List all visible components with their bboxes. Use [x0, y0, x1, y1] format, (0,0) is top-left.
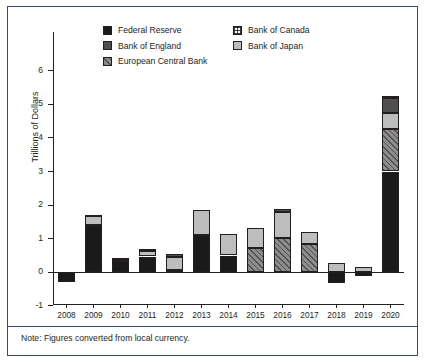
y-axis-tick-label: 5 — [13, 99, 43, 108]
bar-segment-boj-2009 — [85, 215, 102, 225]
bar-segment-boe-2010 — [112, 258, 129, 260]
y-axis-tick-label: 4 — [13, 133, 43, 142]
bar-segment-fed-2013 — [193, 235, 210, 273]
legend-row: European Central Bank — [103, 56, 363, 66]
legend-item-boe: Bank of England — [103, 41, 233, 51]
bar-segment-boj-2019 — [355, 267, 372, 273]
bar-segment-fed-2008 — [58, 272, 75, 282]
white-grid-pattern-swatch — [233, 26, 242, 35]
bar-segment-boj-2014 — [220, 234, 237, 256]
legend-label: European Central Bank — [118, 56, 207, 66]
bar-segment-boe-2009 — [85, 215, 102, 217]
chart-frame: Trillions of Dollars -10123456 200820092… — [7, 6, 418, 356]
chart-note: Note: Figures converted from local curre… — [21, 333, 189, 343]
chart-legend: Federal ReserveBank of CanadaBank of Eng… — [103, 25, 363, 72]
bar-segment-boc-2020 — [382, 96, 399, 99]
y-axis-tick-label: 1 — [13, 234, 43, 243]
bar-segment-fed-2010 — [112, 261, 129, 272]
y-axis-tick-label: 2 — [13, 200, 43, 209]
bar-segment-fed-2014 — [220, 256, 237, 273]
y-axis-tick — [48, 205, 53, 206]
bar-segment-ecb-2017 — [301, 244, 318, 273]
y-axis-tick-label: 0 — [13, 267, 43, 276]
y-axis-tick-label: -1 — [13, 301, 43, 310]
bar-segment-boj-2020 — [382, 113, 399, 129]
bar-segment-boe-2012 — [166, 254, 183, 257]
y-axis-tick — [48, 238, 53, 239]
bar-segment-boe-2020 — [382, 98, 399, 113]
plot-area: Trillions of Dollars -10123456 200820092… — [8, 7, 419, 355]
legend-item-ecb: European Central Bank — [103, 56, 234, 66]
y-axis-tick — [48, 104, 53, 105]
bar-segment-boj-2015 — [247, 228, 264, 248]
x-axis-tick-label: 2020 — [374, 310, 408, 320]
y-axis-line — [53, 32, 54, 305]
legend-row: Federal ReserveBank of Canada — [103, 25, 363, 35]
bar-segment-fed-2019 — [355, 272, 372, 276]
bar-segment-boj-2012 — [166, 257, 183, 270]
y-axis-tick-label: 6 — [13, 66, 43, 75]
bar-segment-ecb-2015 — [247, 248, 264, 273]
bar-2020 — [382, 7, 399, 307]
legend-item-boj: Bank of Japan — [233, 41, 363, 51]
bar-segment-fed-2020 — [382, 172, 399, 273]
bar-segment-boe-2011 — [139, 249, 156, 251]
bar-segment-fed-2011 — [139, 257, 156, 273]
bar-segment-fed-2012 — [166, 270, 183, 273]
bar-2008 — [58, 7, 75, 307]
y-axis-tick — [48, 272, 53, 273]
legend-label: Bank of Canada — [248, 25, 310, 35]
legend-item-fed: Federal Reserve — [103, 25, 233, 35]
note-divider — [8, 326, 417, 327]
bar-segment-fed-2009 — [85, 225, 102, 272]
dark-gray-swatch — [103, 41, 112, 50]
y-axis-tick — [48, 305, 53, 306]
bar-segment-boj-2011 — [139, 251, 156, 257]
bar-segment-boe-2016 — [274, 209, 291, 211]
bar-segment-boj-2017 — [301, 232, 318, 243]
legend-label: Bank of Japan — [248, 41, 303, 51]
bar-segment-boj-2018 — [328, 263, 345, 272]
y-axis-title: Trillions of Dollars — [30, 57, 40, 197]
bar-2009 — [85, 7, 102, 307]
legend-item-boc: Bank of Canada — [233, 25, 363, 35]
y-axis-tick — [48, 171, 53, 172]
y-axis-tick — [48, 137, 53, 138]
solid-black-swatch — [103, 26, 112, 35]
legend-label: Federal Reserve — [118, 25, 182, 35]
light-gray-swatch — [233, 41, 242, 50]
bar-segment-fed-2018 — [328, 272, 345, 283]
bar-segment-boj-2016 — [274, 212, 291, 238]
bar-segment-ecb-2016 — [274, 238, 291, 272]
bar-segment-boj-2013 — [193, 210, 210, 234]
hatched-gray-swatch — [103, 57, 112, 66]
legend-label: Bank of England — [118, 41, 181, 51]
y-axis-tick-label: 3 — [13, 167, 43, 176]
bar-segment-ecb-2020 — [382, 129, 399, 172]
y-axis-tick — [48, 70, 53, 71]
legend-row: Bank of EnglandBank of Japan — [103, 41, 363, 51]
